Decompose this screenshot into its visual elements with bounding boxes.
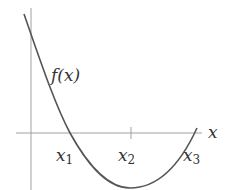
function-curve <box>24 14 197 188</box>
root-x1-label: x1 <box>56 145 73 167</box>
root-x3-label: x3 <box>183 145 200 167</box>
point-x2-label: x2 <box>118 145 135 167</box>
function-label: f(x) <box>49 65 80 85</box>
function-plot: f(x) x x1 x2 x3 <box>0 0 238 190</box>
x-axis-label: x <box>208 122 218 142</box>
